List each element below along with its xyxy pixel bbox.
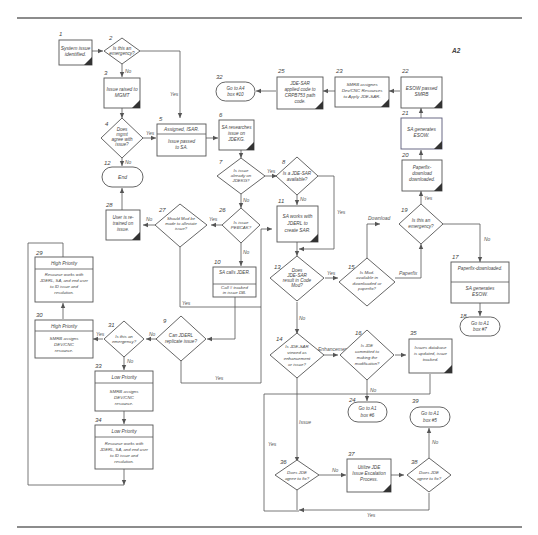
node-18-goto-a1-box7: 18 Go to A1 box #7 [460, 313, 500, 336]
svg-text:17: 17 [452, 254, 459, 260]
node-10-sa-calls-jder: 10 SA calls JDER. Call # tracked in issu… [213, 259, 256, 297]
node-9-jderl-replicate-decision: 9 Can JDERL replicate issue? [156, 316, 206, 361]
svg-text:5: 5 [159, 116, 163, 122]
svg-text:Paperfix-downloaded.: Paperfix-downloaded. [458, 266, 502, 271]
svg-text:Yes: Yes [327, 270, 336, 276]
svg-text:User is re-: User is re- [112, 215, 134, 220]
svg-text:12: 12 [104, 160, 111, 166]
svg-text:Resource works with: Resource works with [105, 441, 144, 446]
svg-text:to ID issue and: to ID issue and [110, 453, 139, 458]
svg-text:High Priority: High Priority [51, 261, 78, 266]
svg-text:JDEKG?: JDEKG? [231, 178, 250, 183]
svg-text:Paperfix-: Paperfix- [413, 165, 432, 170]
svg-text:issue?: issue? [175, 226, 188, 231]
node-22-esow-passed: 22 ESOW passed SMRB [401, 68, 442, 108]
node-11-sa-works-jderl: 11 SA works with JDERL to create SAR. [277, 198, 318, 242]
svg-text:22: 22 [401, 68, 409, 74]
svg-text:emergency?: emergency? [408, 224, 434, 229]
svg-text:PEBCAK?: PEBCAK? [231, 225, 252, 230]
node-14-enhancement-or-issue-decision: 14 Is JDE-SAR viewed as enhancement or i… [270, 333, 324, 378]
svg-text:Issues database: Issues database [415, 345, 448, 350]
svg-text:available?: available? [287, 177, 308, 182]
svg-text:committed to: committed to [355, 349, 380, 354]
svg-text:downloaded.: downloaded. [409, 177, 435, 182]
svg-text:Yes: Yes [215, 375, 224, 381]
svg-text:33: 33 [95, 363, 102, 369]
svg-text:21: 21 [401, 110, 409, 116]
svg-text:Mod?: Mod? [291, 283, 303, 288]
svg-text:Yes: Yes [146, 130, 155, 136]
svg-text:20: 20 [401, 152, 409, 158]
svg-text:Paperfix: Paperfix [399, 270, 418, 276]
node-4-mgmt-agree-decision: 4 Does mgmt agree with issue? [101, 118, 143, 158]
node-36-jde-agree-fix-decision: 36 Does JDE agree to fix? [275, 459, 319, 490]
svg-text:No: No [146, 216, 153, 222]
node-31-emergency-decision: 31 Is this an emergency? [104, 321, 144, 357]
svg-text:available in: available in [356, 275, 379, 280]
svg-text:DEV/CNC: DEV/CNC [114, 395, 135, 400]
svg-text:14: 14 [276, 336, 283, 342]
node-5-assigned-isar: 5 Assigned, ISAR. Issue passed to SA. [157, 116, 206, 156]
svg-text:23: 23 [335, 68, 343, 74]
svg-text:Issue Escalation: Issue Escalation [352, 471, 386, 476]
svg-text:trained on: trained on [113, 221, 134, 226]
svg-text:SA generates: SA generates [407, 127, 436, 132]
node-26-pebcak-decision: 26 Is issue PEBCAK? [218, 207, 260, 243]
node-32-goto-a4-box10: 32 Go to A4 box #10 [216, 74, 255, 101]
svg-text:Resource works with: Resource works with [45, 272, 84, 277]
svg-text:making the: making the [357, 355, 378, 360]
svg-text:viewed as: viewed as [287, 350, 307, 355]
svg-text:Go to A4: Go to A4 [227, 86, 245, 91]
svg-text:box #10: box #10 [227, 92, 244, 97]
svg-text:Low Priority: Low Priority [111, 375, 137, 380]
node-38-jde-agree-fix-decision: 38 Does JDE agree to fix? [407, 458, 451, 492]
svg-text:Go to A1: Go to A1 [471, 321, 489, 326]
svg-text:Is JDE: Is JDE [361, 343, 374, 348]
svg-text:No: No [243, 197, 250, 203]
svg-text:Utilize JDE: Utilize JDE [358, 465, 381, 470]
svg-text:SMRB assignes: SMRB assignes [346, 82, 378, 87]
svg-text:34: 34 [95, 417, 102, 423]
node-29-high-priority-resource: 29 High Priority Resource works with JDE… [35, 250, 93, 302]
node-12-end: 12 End [102, 160, 143, 187]
svg-text:ESOW passed: ESOW passed [406, 86, 438, 91]
svg-text:JDERL, SA, and end user: JDERL, SA, and end user [99, 447, 149, 452]
node-1-system-issue: 1 System issue identified. [59, 31, 92, 65]
svg-text:box #5: box #5 [423, 418, 437, 423]
flowchart-canvas: A2 [0, 0, 538, 535]
svg-text:MGMT: MGMT [115, 93, 131, 98]
node-28-user-retrained: 28 User is re- trained on issue. [105, 202, 140, 240]
svg-text:Is this an: Is this an [412, 218, 431, 223]
svg-text:SA works with: SA works with [283, 214, 313, 219]
node-7-issue-on-jdekg-decision: 7 Is issue already on JDEKG? [217, 158, 265, 194]
svg-text:resource.: resource. [115, 401, 133, 406]
node-25-jde-sar-applied: 25 JDE-SAR applied code to CRPB753 path … [277, 68, 323, 109]
svg-text:box #7: box #7 [473, 327, 487, 332]
svg-text:No: No [125, 68, 132, 74]
svg-text:paperfix?: paperfix? [357, 286, 377, 291]
node-30-high-priority-smrb: 30 High Priority SMRB assigns DEV/CNC re… [35, 312, 93, 358]
svg-text:resolution.: resolution. [114, 459, 133, 464]
svg-text:Yes: Yes [209, 216, 218, 222]
svg-text:38: 38 [411, 459, 418, 465]
svg-text:Yes: Yes [170, 91, 179, 97]
svg-text:in issue DB.: in issue DB. [223, 290, 246, 295]
svg-text:3: 3 [104, 70, 108, 76]
svg-text:JDERL, SA, and end user: JDERL, SA, and end user [39, 278, 89, 283]
svg-text:Low Priority: Low Priority [111, 429, 137, 434]
node-23-smrb-assigns: 23 SMRB assignes Dev/CNC Resources to Ap… [335, 68, 389, 107]
svg-text:issue.: issue. [117, 227, 129, 232]
svg-text:No: No [300, 196, 307, 202]
node-6-sa-researches: 6 SA researches issue on JDEKG. [219, 112, 254, 150]
svg-text:6: 6 [219, 112, 223, 118]
svg-text:applied code to: applied code to [284, 87, 316, 92]
svg-text:agree to fix?: agree to fix? [285, 476, 310, 481]
svg-text:32: 32 [216, 74, 223, 80]
node-19-emergency-decision: 19 Is this an emergency? [399, 204, 443, 244]
svg-text:box #6: box #6 [361, 413, 375, 418]
svg-text:Go to A1: Go to A1 [359, 406, 377, 411]
svg-text:No: No [243, 249, 250, 255]
svg-text:28: 28 [105, 202, 113, 208]
svg-text:is updated, issue: is updated, issue [414, 351, 448, 356]
svg-text:Process.: Process. [360, 477, 378, 482]
